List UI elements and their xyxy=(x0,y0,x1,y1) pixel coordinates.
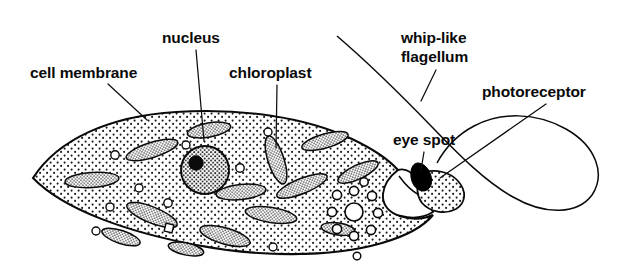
leader-photoreceptor xyxy=(440,104,546,178)
vacuole-satellite xyxy=(366,225,375,234)
granule xyxy=(135,184,143,192)
vacuole-satellite xyxy=(360,178,368,186)
nucleus-group xyxy=(181,146,229,194)
leader-cell-membrane xyxy=(108,84,147,120)
label-cell-membrane: cell membrane xyxy=(30,64,138,81)
vacuole-satellite xyxy=(367,191,376,200)
vacuole-satellite xyxy=(349,186,358,195)
reservoir-group xyxy=(383,163,464,217)
euglena-diagram: cell membrane nucleus chloroplast whip-l… xyxy=(0,0,624,265)
vacuole-satellite xyxy=(327,207,336,216)
vacuole-satellite xyxy=(332,190,341,199)
label-nucleus: nucleus xyxy=(162,29,220,46)
euglena-illustration: cell membrane nucleus chloroplast whip-l… xyxy=(0,0,624,265)
label-photoreceptor: photoreceptor xyxy=(482,83,586,100)
label-flagellum-line2: flagellum xyxy=(401,48,468,65)
label-flagellum-line1: whip-like xyxy=(400,29,467,46)
vacuole-satellite xyxy=(373,208,382,217)
granule xyxy=(164,223,174,233)
granule xyxy=(264,128,272,136)
granule xyxy=(236,164,244,172)
granule xyxy=(111,151,119,159)
nucleus-body xyxy=(181,146,229,194)
granule xyxy=(182,141,190,149)
vacuole-satellite xyxy=(332,224,341,233)
granule xyxy=(164,199,172,207)
contractile-vacuole xyxy=(345,203,363,221)
label-chloroplast: chloroplast xyxy=(229,64,311,81)
nucleolus xyxy=(189,156,203,170)
leader-flagellum xyxy=(421,70,436,101)
granule xyxy=(106,203,114,211)
granule xyxy=(353,252,361,260)
label-eye-spot: eye spot xyxy=(393,131,455,148)
granule xyxy=(92,227,100,235)
granule xyxy=(269,243,277,251)
vacuole-satellite xyxy=(349,231,358,240)
